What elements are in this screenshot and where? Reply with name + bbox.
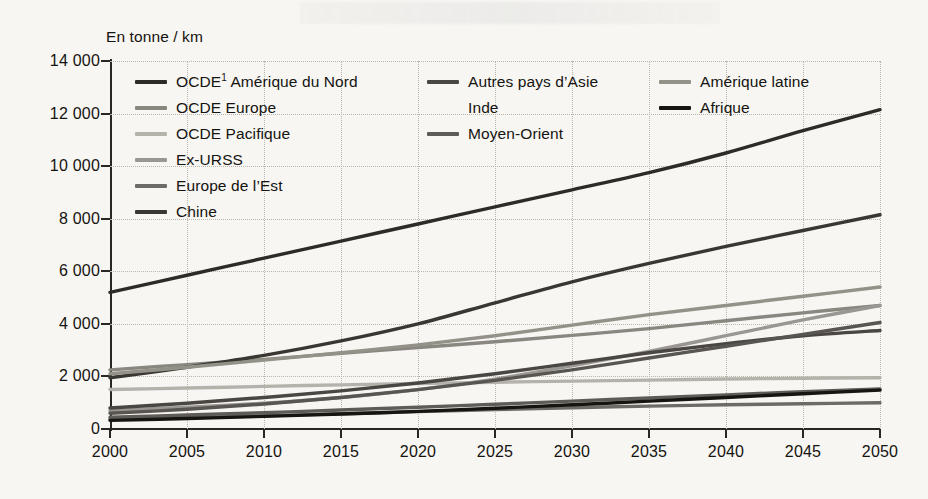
legend-item[interactable]: OCDE Pacifique	[135, 121, 427, 146]
x-tick-mark	[725, 429, 727, 438]
y-tick-label: 4 000	[59, 315, 100, 333]
legend-swatch-icon	[427, 80, 459, 84]
x-tick-label: 2045	[785, 443, 821, 461]
legend-swatch-icon	[659, 80, 691, 84]
legend-label: OCDE1 Amérique du Nord	[176, 72, 358, 91]
x-tick-mark	[417, 429, 419, 438]
legend-item[interactable]: OCDE Europe	[135, 95, 427, 120]
gridline-vertical	[880, 61, 881, 429]
x-tick-label: 2015	[323, 443, 359, 461]
x-tick-label: 2035	[631, 443, 667, 461]
legend-label: Afrique	[700, 99, 750, 117]
legend-item[interactable]: Europe de l’Est	[135, 173, 427, 198]
legend-item[interactable]: Chine	[135, 199, 427, 224]
plot-area: OCDE1 Amérique du NordOCDE EuropeOCDE Pa…	[110, 61, 880, 429]
y-tick-label: 12 000	[50, 105, 100, 123]
y-tick-label: 2 000	[59, 367, 100, 385]
legend-label: Inde	[468, 99, 499, 117]
page-bleed-through	[300, 2, 720, 24]
y-tick-label: 0	[91, 420, 100, 438]
legend-swatch-icon	[135, 158, 167, 162]
legend-footnote-marker: 1	[221, 72, 227, 83]
legend-label: Europe de l’Est	[176, 177, 283, 195]
x-tick-mark	[648, 429, 650, 438]
series-line	[110, 215, 880, 378]
legend-swatch-icon	[135, 184, 167, 188]
legend-item[interactable]: Afrique	[659, 95, 859, 120]
legend-label: OCDE Europe	[176, 99, 276, 117]
legend-item[interactable]: Inde	[427, 95, 659, 120]
x-tick-label: 2000	[92, 443, 128, 461]
chart-page: En tonne / km 14 00012 00010 0008 0006 0…	[0, 0, 928, 499]
legend-swatch-icon	[659, 106, 691, 110]
legend-item[interactable]: Moyen-Orient	[427, 121, 659, 146]
x-tick-mark	[186, 429, 188, 438]
legend-label: Autres pays d’Asie	[468, 73, 598, 91]
x-tick-label: 2025	[477, 443, 513, 461]
legend-column-1: OCDE1 Amérique du NordOCDE EuropeOCDE Pa…	[135, 69, 427, 224]
x-tick-mark	[263, 429, 265, 438]
legend-item[interactable]: Autres pays d’Asie	[427, 69, 659, 94]
y-tick-label: 8 000	[59, 210, 100, 228]
x-tick-label: 2040	[708, 443, 744, 461]
legend-swatch-icon	[135, 132, 167, 136]
legend-swatch-icon	[427, 132, 459, 136]
legend-label: Ex-URSS	[176, 151, 243, 169]
legend-label: Chine	[176, 203, 217, 221]
x-tick-label: 2050	[862, 443, 898, 461]
x-tick-mark	[494, 429, 496, 438]
legend-column-3: Amérique latineAfrique	[659, 69, 859, 224]
y-tick-label: 14 000	[50, 52, 100, 70]
legend-label: Amérique latine	[700, 73, 809, 91]
legend-column-2: Autres pays d’AsieIndeMoyen-Orient	[427, 69, 659, 224]
x-tick-label: 2030	[554, 443, 590, 461]
x-tick-mark	[879, 429, 881, 438]
x-tick-mark	[802, 429, 804, 438]
x-tick-mark	[571, 429, 573, 438]
x-tick-label: 2020	[400, 443, 436, 461]
chart-legend: OCDE1 Amérique du NordOCDE EuropeOCDE Pa…	[135, 69, 859, 224]
legend-item[interactable]: OCDE1 Amérique du Nord	[135, 69, 427, 94]
legend-swatch-icon	[135, 80, 167, 84]
x-tick-mark	[340, 429, 342, 438]
x-tick-label: 2005	[169, 443, 205, 461]
legend-item[interactable]: Ex-URSS	[135, 147, 427, 172]
x-tick-label: 2010	[246, 443, 282, 461]
legend-item[interactable]: Amérique latine	[659, 69, 859, 94]
legend-label: Moyen-Orient	[468, 125, 563, 143]
y-tick-label: 6 000	[59, 262, 100, 280]
legend-label: OCDE Pacifique	[176, 125, 290, 143]
legend-swatch-icon	[135, 210, 167, 214]
legend-swatch-icon	[135, 106, 167, 110]
y-tick-label: 10 000	[50, 157, 100, 175]
legend-swatch-icon	[427, 106, 459, 110]
y-axis-unit-label: En tonne / km	[106, 28, 203, 46]
